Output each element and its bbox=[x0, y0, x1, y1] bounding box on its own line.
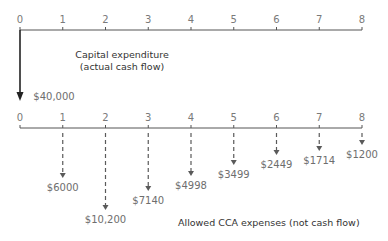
bottom-tick-8: 8 bbox=[359, 113, 365, 123]
capital-expenditure-amount: $40,000 bbox=[33, 92, 74, 102]
cca-amount-period-8: $1200 bbox=[346, 150, 378, 160]
cca-amount-period-2: $10,200 bbox=[85, 215, 126, 225]
bottom-tick-3: 3 bbox=[145, 113, 151, 123]
bottom-tick-5: 5 bbox=[231, 113, 237, 123]
caption-line-2: (actual cash flow) bbox=[75, 61, 168, 73]
cca-amount-period-7: $1714 bbox=[303, 156, 335, 166]
cca-arrow-3-icon bbox=[145, 133, 151, 191]
cca-amount-period-4: $4998 bbox=[175, 181, 207, 191]
cca-arrow-1-icon bbox=[60, 133, 66, 178]
cca-amount-period-5: $3499 bbox=[218, 170, 250, 180]
bottom-tick-2: 2 bbox=[102, 113, 108, 123]
cca-amount-period-6: $2449 bbox=[261, 160, 293, 170]
top-tick-4: 4 bbox=[188, 15, 194, 25]
cca-arrow-7-icon bbox=[316, 133, 322, 151]
cca-arrow-2-icon bbox=[103, 133, 109, 210]
capital-expenditure-caption: Capital expenditure (actual cash flow) bbox=[75, 49, 168, 73]
top-tick-0: 0 bbox=[17, 15, 23, 25]
top-tick-7: 7 bbox=[316, 15, 322, 25]
top-tick-2: 2 bbox=[102, 15, 108, 25]
caption-line-1: Capital expenditure bbox=[75, 49, 168, 61]
top-tick-5: 5 bbox=[231, 15, 237, 25]
cca-caption: Allowed CCA expenses (not cash flow) bbox=[178, 217, 360, 229]
bottom-tick-1: 1 bbox=[60, 113, 66, 123]
bottom-tick-6: 6 bbox=[273, 113, 279, 123]
cca-arrows bbox=[60, 133, 365, 210]
top-tick-8: 8 bbox=[359, 15, 365, 25]
cca-arrow-5-icon bbox=[231, 133, 237, 165]
cash-flow-diagram: 012345678 012345678 Capital expenditure … bbox=[0, 0, 388, 241]
cca-arrow-4-icon bbox=[188, 133, 194, 176]
cca-amount-period-1: $6000 bbox=[47, 183, 79, 193]
bottom-tick-7: 7 bbox=[316, 113, 322, 123]
cca-arrow-6-icon bbox=[274, 133, 280, 155]
cca-arrow-8-icon bbox=[359, 133, 365, 145]
bottom-tick-4: 4 bbox=[188, 113, 194, 123]
top-tick-1: 1 bbox=[60, 15, 66, 25]
top-tick-6: 6 bbox=[273, 15, 279, 25]
cca-amount-period-3: $7140 bbox=[132, 196, 164, 206]
top-tick-3: 3 bbox=[145, 15, 151, 25]
capital-expenditure-arrow-icon bbox=[17, 30, 24, 101]
bottom-tick-0: 0 bbox=[17, 113, 23, 123]
